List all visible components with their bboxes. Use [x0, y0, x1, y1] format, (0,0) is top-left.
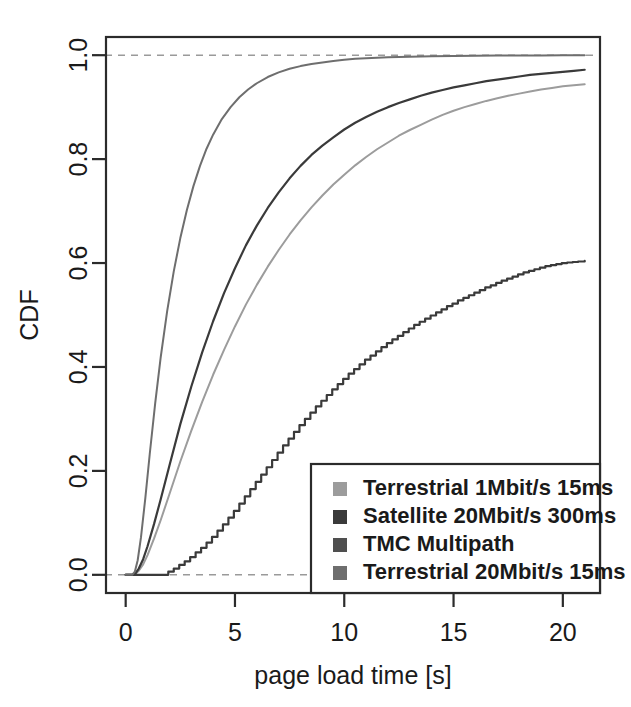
- x-tick-label: 5: [228, 618, 242, 646]
- legend-label-2: TMC Multipath: [363, 531, 515, 556]
- chart-background: [0, 0, 631, 707]
- y-tick-label: 0.2: [64, 454, 92, 489]
- x-tick-label: 20: [549, 618, 577, 646]
- legend-label-0: Terrestrial 1Mbit/s 15ms: [363, 475, 613, 500]
- x-tick-label: 10: [330, 618, 358, 646]
- legend-label-1: Satellite 20Mbit/s 300ms: [363, 503, 616, 528]
- y-tick-label: 0.8: [64, 142, 92, 177]
- x-tick-label: 15: [440, 618, 468, 646]
- y-tick-label: 0.4: [64, 349, 92, 384]
- legend-swatch-2: [333, 538, 347, 552]
- cdf-page-load-time-chart: 05101520 0.00.20.40.60.81.0 page load ti…: [0, 0, 631, 707]
- y-axis-title: CDF: [15, 289, 43, 340]
- legend-swatch-3: [333, 566, 347, 580]
- legend-swatch-1: [333, 510, 347, 524]
- x-tick-label: 0: [119, 618, 133, 646]
- y-tick-label: 1.0: [64, 38, 92, 73]
- y-tick-label: 0.6: [64, 246, 92, 281]
- x-axis-title: page load time [s]: [254, 661, 451, 689]
- legend-label-3: Terrestrial 20Mbit/s 15ms: [363, 559, 626, 584]
- legend-swatch-0: [333, 482, 347, 496]
- legend: Terrestrial 1Mbit/s 15msSatellite 20Mbit…: [311, 464, 626, 593]
- y-tick-label: 0.0: [64, 557, 92, 592]
